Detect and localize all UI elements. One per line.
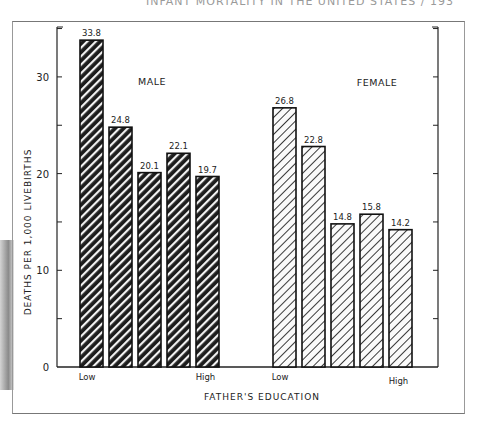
value-label: 14.2 <box>391 218 410 228</box>
bar-female-2 <box>302 147 325 367</box>
bar-male-2 <box>109 127 132 367</box>
y-axis-title: DEATHS PER 1,000 LIVEBIRTHS <box>23 149 33 316</box>
bar-male-4 <box>167 153 190 367</box>
bar-female-5 <box>389 230 412 367</box>
group-label-female: FEMALE <box>357 77 397 88</box>
x-category-label: High <box>389 376 409 386</box>
x-category-label: Low <box>79 372 96 382</box>
y-tick-label: 20 <box>36 169 49 180</box>
value-label: 33.8 <box>82 28 101 38</box>
value-label: 19.7 <box>198 165 217 175</box>
y-tick-label: 0 <box>43 362 49 373</box>
bar-chart: 010203033.8Low24.820.122.119.7High26.8Lo… <box>0 0 479 430</box>
bar-male-1 <box>80 40 103 367</box>
bar-male-5 <box>196 177 219 367</box>
value-label: 22.1 <box>169 141 188 151</box>
group-label-male: MALE <box>138 76 166 87</box>
y-tick-label: 30 <box>36 72 49 83</box>
x-category-label: High <box>196 372 216 382</box>
value-label: 20.1 <box>140 161 159 171</box>
value-label: 15.8 <box>362 202 381 212</box>
x-axis-title: FATHER'S EDUCATION <box>204 392 320 402</box>
value-label: 22.8 <box>304 135 323 145</box>
value-label: 26.8 <box>275 96 294 106</box>
x-category-label: Low <box>272 372 289 382</box>
bar-female-1 <box>273 108 296 367</box>
value-label: 14.8 <box>333 212 352 222</box>
bar-female-3 <box>331 224 354 367</box>
y-tick-label: 10 <box>36 265 49 276</box>
bar-female-4 <box>360 214 383 367</box>
value-label: 24.8 <box>111 115 130 125</box>
bar-male-3 <box>138 173 161 367</box>
